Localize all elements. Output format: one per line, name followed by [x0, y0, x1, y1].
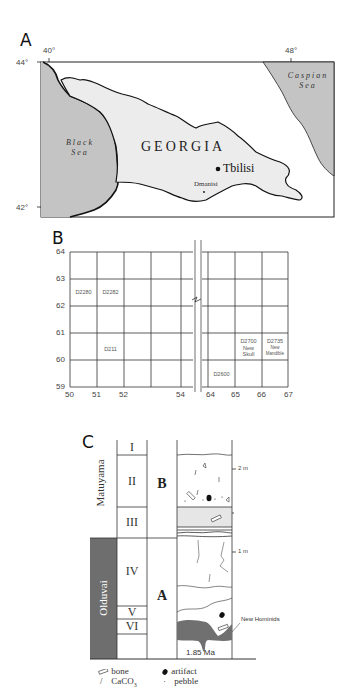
legend-artifact: artifact: [161, 666, 197, 676]
pebble-icon: ·: [163, 676, 172, 686]
legend-caco3: / CaCO3: [100, 676, 137, 688]
olduvai-label: Olduvai: [97, 564, 111, 632]
bone-icon-1: [187, 491, 195, 499]
scale-2m: 2 m: [238, 465, 248, 471]
scale-1m: 1 m: [238, 548, 248, 554]
bone-icon: [98, 669, 109, 675]
group-a: A: [147, 588, 177, 604]
legend-bone: bone: [98, 666, 129, 676]
artifact-icon: [161, 668, 169, 676]
date-label: 1.85 Ma: [186, 648, 215, 657]
stratigraphic-column: [0, 0, 348, 688]
legend-pebble: · pebble: [163, 676, 198, 686]
unit-vi: VI: [117, 619, 147, 634]
artifact-icon-1: [207, 495, 212, 501]
matuyama-label: Matuyama: [94, 447, 108, 519]
unit-iii: III: [117, 515, 147, 530]
artifact-icon-2: [218, 611, 225, 619]
unit-ii: II: [117, 474, 147, 489]
new-hominids-annotation: New Hominids: [241, 616, 280, 622]
unit-iv: IV: [117, 564, 147, 579]
unit-v: V: [117, 605, 147, 620]
caco3-icon: /: [100, 676, 109, 686]
group-b: B: [147, 476, 177, 492]
unit-i: I: [117, 440, 147, 455]
